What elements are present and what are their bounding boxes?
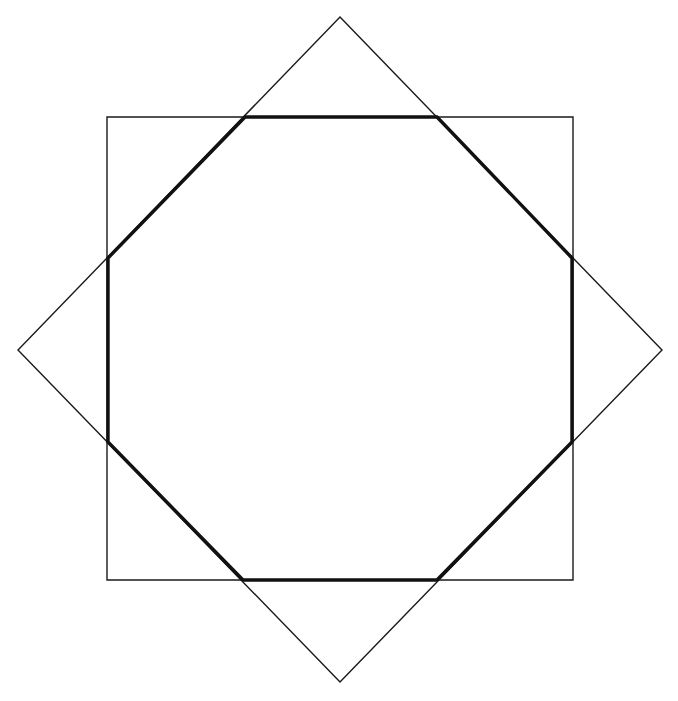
geometry-figure — [0, 0, 678, 701]
intersection-octagon — [108, 117, 572, 580]
figure-canvas — [0, 0, 678, 701]
